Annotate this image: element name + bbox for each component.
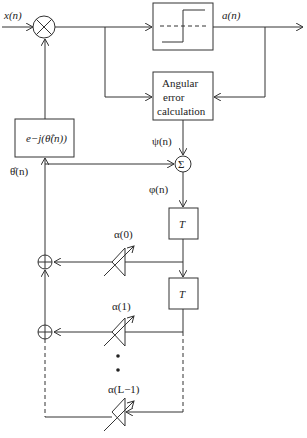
svg-text:T: T — [179, 218, 186, 230]
svg-text:error: error — [163, 91, 185, 103]
svg-text:e−j(θ̂(n)): e−j(θ̂(n)) — [26, 132, 67, 145]
tap-gain-1 — [104, 316, 134, 346]
input-signal: x(n) — [2, 9, 33, 27]
svg-text:calculation: calculation — [157, 105, 206, 117]
svg-text:T: T — [179, 288, 186, 300]
tap-label-last: α(L−1) — [108, 383, 140, 396]
adder-node-0 — [38, 255, 52, 269]
summation-node: Σ — [175, 156, 191, 172]
delay-block-1: T — [169, 208, 198, 239]
psi-label: ψ(n) — [152, 135, 172, 148]
phase-tracking-block-diagram: x(n) a(n) Angular error calculation ψ(n)… — [0, 0, 307, 438]
tap-gain-last — [104, 398, 134, 431]
delay-block-2: T — [169, 278, 198, 309]
input-label: x(n) — [3, 9, 22, 22]
decision-slicer-block — [153, 3, 213, 50]
phase-rotator-block: e−j(θ̂(n)) — [15, 119, 74, 157]
theta-hat-label: θ̂(n) — [10, 165, 28, 178]
svg-text:Angular: Angular — [162, 77, 198, 89]
multiplier-node — [33, 16, 55, 38]
tap-gain-0 — [104, 246, 134, 276]
tap-label-0: α(0) — [114, 228, 133, 241]
svg-text:Σ: Σ — [178, 158, 184, 170]
tap-label-1: α(1) — [112, 300, 131, 313]
adder-node-1 — [38, 325, 52, 339]
ellipsis — [116, 354, 120, 372]
phi-label: φ(n) — [149, 183, 169, 196]
angular-error-block: Angular error calculation — [153, 72, 213, 120]
output-label: a(n) — [222, 9, 241, 22]
